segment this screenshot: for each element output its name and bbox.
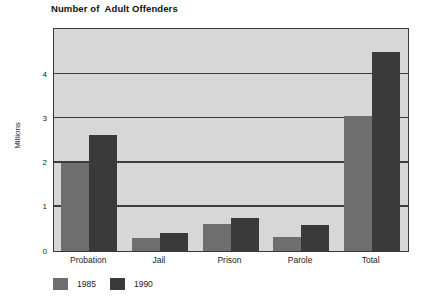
bar-total-1990 [372,52,400,251]
x-tick-label-probation: Probation [70,255,106,265]
x-tick-label-prison: Prison [217,255,241,265]
y-axis-tick-labels: 01234 [26,0,47,299]
bar-probation-1990 [89,135,117,251]
y-tick-label: 2 [26,158,47,167]
chart-title: Number of Adult Offenders [51,3,178,14]
legend-swatch-icon-1990 [110,278,125,290]
plot-area [53,28,409,252]
bar-parole-1990 [301,225,329,251]
y-axis-label: Millions [13,106,22,166]
y-tick-label: 1 [26,202,47,211]
chart-legend: 19851990 [53,278,153,290]
y-tick-label: 0 [26,246,47,255]
x-tick-label-parole: Parole [288,255,313,265]
legend-label-1990: 1990 [134,280,153,289]
x-axis-tick-labels: ProbationJailPrisonParoleTotal [53,255,409,269]
plot-inner [54,29,408,251]
bar-jail-1985 [132,238,160,251]
bar-prison-1990 [231,218,259,251]
bar-jail-1990 [160,233,188,251]
gridline [54,73,408,75]
bar-prison-1985 [203,224,231,251]
legend-item-1990[interactable]: 1990 [110,278,153,290]
y-tick-label: 3 [26,113,47,122]
legend-label-1985: 1985 [77,280,96,289]
bar-parole-1985 [273,237,301,251]
x-tick-label-jail: Jail [153,255,166,265]
x-tick-label-total: Total [362,255,380,265]
legend-swatch-icon-1985 [53,278,68,290]
bar-probation-1985 [61,163,89,251]
legend-item-1985[interactable]: 1985 [53,278,96,290]
y-tick-label: 4 [26,69,47,78]
bar-total-1985 [344,116,372,251]
